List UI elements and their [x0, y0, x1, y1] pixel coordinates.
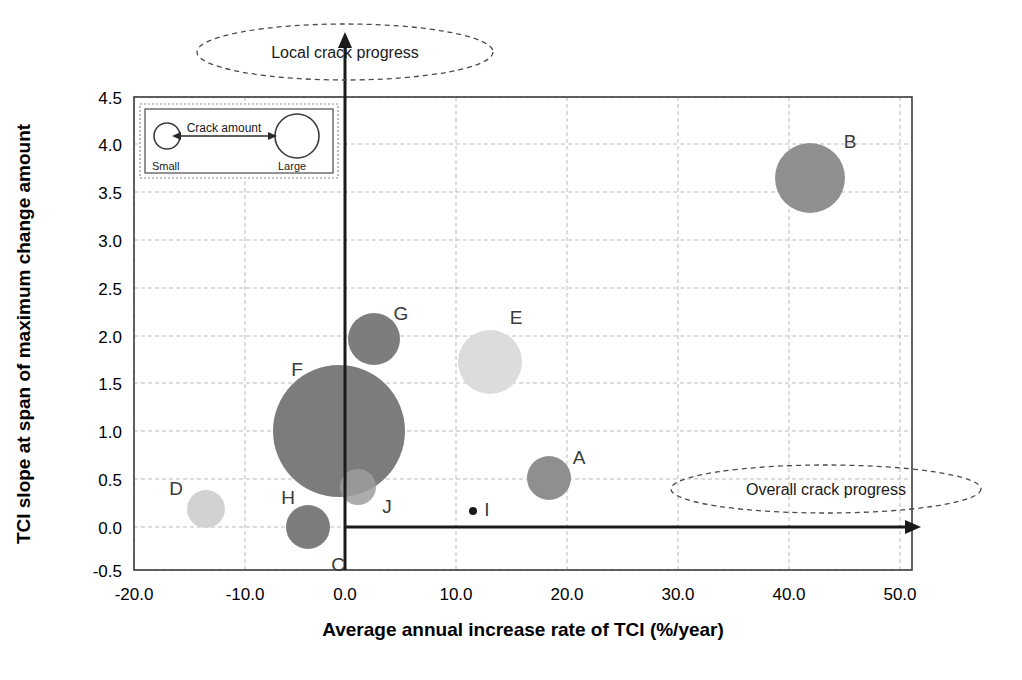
- bubble-label-A: A: [573, 447, 586, 468]
- x-tick-40: 40.0: [772, 585, 805, 604]
- y-tick-4-5: 4.5: [98, 89, 122, 108]
- bubble-E[interactable]: [458, 330, 522, 394]
- legend-title: Crack amount: [187, 121, 262, 135]
- x-axis-title: Average annual increase rate of TCI (%/y…: [322, 619, 724, 640]
- y-tick-3-0: 3.0: [98, 232, 122, 251]
- y-axis-tick-labels: 4.5 4.0 3.5 3.0 2.5 2.0 1.5 1.0 0.5 0.0 …: [93, 89, 122, 581]
- x-tick-neg-20: -20.0: [115, 585, 154, 604]
- y-tick-2-5: 2.5: [98, 280, 122, 299]
- bubble-label-B: B: [844, 131, 857, 152]
- bubble-A[interactable]: [527, 456, 571, 500]
- y-tick-0-5: 0.5: [98, 471, 122, 490]
- bubble-label-D: D: [169, 478, 183, 499]
- y-tick-neg-0-5: -0.5: [93, 562, 122, 581]
- bubble-I[interactable]: [469, 507, 477, 515]
- bubble-D[interactable]: [187, 490, 225, 528]
- x-tick-30: 30.0: [661, 585, 694, 604]
- local-crack-progress-label: Local crack progress: [271, 44, 419, 61]
- x-tick-neg-10: -10.0: [226, 585, 265, 604]
- legend-small-label: Small: [152, 160, 180, 172]
- bubble-label-E: E: [510, 307, 523, 328]
- y-tick-3-5: 3.5: [98, 184, 122, 203]
- y-tick-0-0: 0.0: [98, 519, 122, 538]
- x-axis-arrowhead: [905, 520, 921, 534]
- x-tick-10: 10.0: [439, 585, 472, 604]
- legend-large-label: Large: [278, 160, 306, 172]
- size-legend: Crack amount Small Large: [140, 104, 338, 178]
- y-tick-1-5: 1.5: [98, 375, 122, 394]
- overall-crack-progress-label: Overall crack progress: [746, 481, 906, 498]
- chart-canvas: A B C D E F G H I J 4.5 4.0 3.5 3.0 2.5 …: [0, 0, 1022, 680]
- bubble-label-G: G: [394, 303, 409, 324]
- bubble-chart-figure: A B C D E F G H I J 4.5 4.0 3.5 3.0 2.5 …: [0, 0, 1022, 680]
- bubble-label-H: H: [281, 487, 295, 508]
- y-tick-4-0: 4.0: [98, 136, 122, 155]
- bubble-label-I: I: [484, 499, 489, 520]
- x-axis-tick-labels: -20.0 -10.0 0.0 10.0 20.0 30.0 40.0 50.0: [115, 585, 917, 604]
- bubble-label-J: J: [382, 496, 392, 517]
- bubble-C[interactable]: [286, 505, 330, 549]
- bubble-B[interactable]: [775, 143, 845, 213]
- x-tick-20: 20.0: [550, 585, 583, 604]
- bubble-G[interactable]: [348, 313, 400, 365]
- y-axis-title: TCI slope at span of maximum change amou…: [13, 123, 34, 544]
- bubble-F[interactable]: [273, 365, 405, 497]
- annotation-horizontal: Overall crack progress: [671, 465, 981, 513]
- bubble-label-F: F: [291, 359, 303, 380]
- y-tick-2-0: 2.0: [98, 328, 122, 347]
- x-tick-0: 0.0: [333, 585, 357, 604]
- x-tick-50: 50.0: [883, 585, 916, 604]
- bubble-label-C: C: [331, 554, 345, 575]
- y-tick-1-0: 1.0: [98, 423, 122, 442]
- legend-bubble-large: [275, 114, 319, 158]
